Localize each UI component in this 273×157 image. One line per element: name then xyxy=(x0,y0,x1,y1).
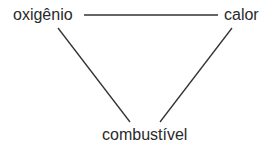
edge-oxygen-fuel xyxy=(58,28,130,122)
node-oxygen: oxigênio xyxy=(13,7,73,23)
node-fuel: combustível xyxy=(102,127,187,143)
edge-heat-fuel xyxy=(160,28,232,122)
node-heat: calor xyxy=(224,7,259,23)
